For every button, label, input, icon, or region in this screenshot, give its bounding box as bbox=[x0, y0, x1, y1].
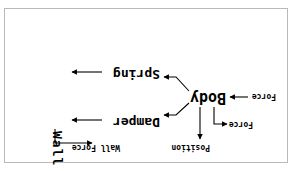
edge-label-force-input: Force bbox=[252, 92, 276, 100]
edge-label-force-output: Force bbox=[229, 120, 253, 128]
edge-body-to-spring bbox=[164, 77, 189, 91]
edge-label-position: Position bbox=[171, 143, 210, 151]
diagram-canvas: Body Damper Spring Wall Force Force Posi… bbox=[0, 0, 295, 171]
edge-label-wall-force: Wall Force bbox=[72, 143, 120, 151]
diagram-connectors bbox=[4, 8, 288, 163]
node-wall[interactable]: Wall bbox=[51, 131, 64, 166]
diagram-content-rotated: Body Damper Spring Wall Force Force Posi… bbox=[4, 8, 288, 163]
node-body[interactable]: Body bbox=[190, 90, 226, 105]
node-damper[interactable]: Damper bbox=[113, 116, 160, 129]
edge-body-to-damper bbox=[164, 103, 189, 115]
node-spring[interactable]: Spring bbox=[113, 68, 160, 81]
edge-body-to-force-out bbox=[214, 107, 227, 124]
